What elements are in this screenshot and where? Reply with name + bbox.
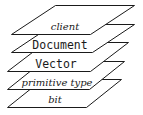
layer-label: Vector [35,57,77,71]
layer-stack-diagram: bit primitive type Vector Document clien… [0,0,143,115]
layer-label: primitive type [21,77,92,88]
layer-label: bit [48,94,63,105]
layer-label: Document [32,38,87,52]
layer-label: client [51,21,80,32]
